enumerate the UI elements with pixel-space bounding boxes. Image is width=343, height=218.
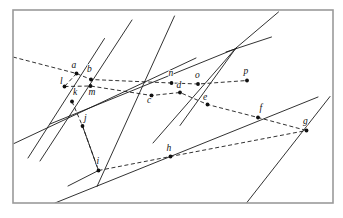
point-label-l: l	[60, 76, 63, 86]
point-label-d: d	[177, 80, 182, 90]
point-label-b: b	[87, 64, 92, 74]
point-label-m: m	[89, 87, 96, 97]
point-h	[169, 155, 173, 159]
point-f	[256, 116, 260, 120]
point-n	[170, 81, 174, 85]
point-label-h: h	[167, 143, 172, 153]
point-label-i: i	[97, 156, 100, 166]
point-j	[81, 124, 85, 128]
point-label-a: a	[72, 60, 77, 70]
point-label-o: o	[195, 70, 200, 80]
point-p	[245, 79, 249, 83]
point-o	[196, 82, 200, 86]
point-e	[206, 103, 210, 107]
point-g	[305, 129, 309, 133]
point-label-n: n	[169, 68, 174, 78]
geometry-diagram-svg: abcdefghijklmnop	[0, 0, 343, 218]
point-a	[75, 72, 79, 76]
point-k	[70, 100, 74, 104]
figure-root: abcdefghijklmnop	[0, 0, 343, 218]
point-d	[178, 91, 182, 95]
point-i	[97, 169, 101, 173]
point-b	[89, 78, 93, 82]
point-label-e: e	[203, 92, 207, 102]
point-label-g: g	[303, 116, 308, 126]
point-l	[63, 85, 67, 89]
point-label-p: p	[243, 66, 249, 76]
